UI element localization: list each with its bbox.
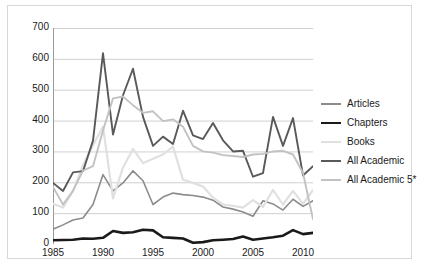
legend-swatch-line-icon <box>321 103 341 105</box>
y-axis-label-300: 300 <box>32 145 49 155</box>
legend-swatch-line-icon <box>321 122 341 124</box>
plot-area <box>53 28 313 244</box>
legend-swatch-line-icon <box>321 141 341 143</box>
legend-label: All Academic <box>347 156 404 166</box>
x-axis-label-2005: 2005 <box>242 248 264 258</box>
y-axis-label-400: 400 <box>32 115 49 125</box>
chart-legend: ArticlesChaptersBooksAll AcademicAll Aca… <box>321 94 421 189</box>
x-axis-label-1985: 1985 <box>42 248 64 258</box>
legend-item-books[interactable]: Books <box>321 132 421 151</box>
series-line-all-academic <box>53 53 313 191</box>
figure-frame: 0100200300400500600700 19851990199520002… <box>7 5 412 259</box>
x-axis-label-2010: 2010 <box>292 248 314 258</box>
legend-label: All Academic 5* <box>347 175 416 185</box>
x-axis-tick-labels: 198519901995200020052010 <box>8 248 421 262</box>
legend-label: Chapters <box>347 118 388 128</box>
x-axis-label-1990: 1990 <box>92 248 114 258</box>
x-axis-label-1995: 1995 <box>142 248 164 258</box>
chart-figure: 0100200300400500600700 19851990199520002… <box>0 0 421 268</box>
legend-item-all-academic[interactable]: All Academic <box>321 151 421 170</box>
legend-item-articles[interactable]: Articles <box>321 94 421 113</box>
y-axis-label-600: 600 <box>32 53 49 63</box>
chart-canvas <box>53 28 313 244</box>
x-axis-label-2000: 2000 <box>192 248 214 258</box>
legend-label: Articles <box>347 99 380 109</box>
y-axis-label-500: 500 <box>32 84 49 94</box>
legend-swatch-line-icon <box>321 160 341 162</box>
y-axis-label-200: 200 <box>32 176 49 186</box>
series-line-chapters <box>53 230 313 243</box>
y-axis-label-700: 700 <box>32 22 49 32</box>
legend-item-all-academic-5[interactable]: All Academic 5* <box>321 170 421 189</box>
y-axis-label-100: 100 <box>32 207 49 217</box>
legend-swatch-line-icon <box>321 179 341 181</box>
legend-label: Books <box>347 137 375 147</box>
y-axis-tick-labels: 0100200300400500600700 <box>8 6 49 266</box>
series-line-all-academic-5 <box>53 97 313 220</box>
legend-item-chapters[interactable]: Chapters <box>321 113 421 132</box>
